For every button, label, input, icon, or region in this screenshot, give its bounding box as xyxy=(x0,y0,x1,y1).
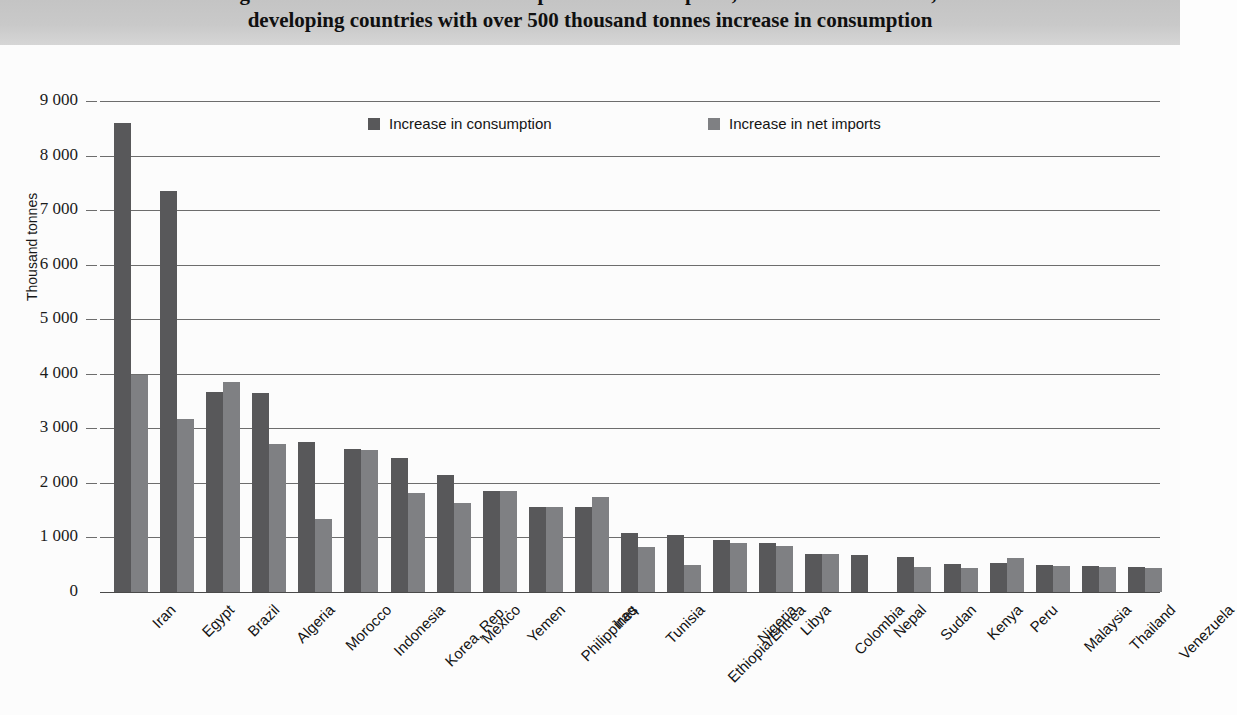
bar-consumption xyxy=(713,540,730,592)
bar-group xyxy=(897,101,931,592)
y-tick-label: 6 000 xyxy=(2,254,78,274)
y-axis-tick xyxy=(86,265,97,266)
bar-group xyxy=(713,101,747,592)
y-tick-label: 4 000 xyxy=(2,363,78,383)
x-axis-category-label: Kenya xyxy=(983,601,1025,643)
legend-label: Increase in net imports xyxy=(729,115,881,132)
x-axis-category-label: Indonesia xyxy=(390,601,448,659)
x-axis-category-label: Egypt xyxy=(198,601,237,640)
bar-net-imports xyxy=(684,565,701,592)
bar-net-imports xyxy=(1007,558,1024,592)
bar-consumption xyxy=(1036,565,1053,592)
bar-consumption xyxy=(206,392,223,592)
bar-net-imports xyxy=(361,450,378,592)
bar-group xyxy=(851,101,885,592)
bar-group xyxy=(1036,101,1070,592)
bar-group xyxy=(160,101,194,592)
bar-consumption xyxy=(851,555,868,592)
y-tick-label: 5 000 xyxy=(2,308,78,328)
bar-group xyxy=(805,101,839,592)
bar-group xyxy=(667,101,701,592)
y-axis-tick xyxy=(86,483,97,484)
bar-consumption xyxy=(575,507,592,592)
bar-consumption xyxy=(114,123,131,592)
y-axis-tick xyxy=(86,101,97,102)
chart-area: Thousand tonnes 9 0008 0007 0006 0005 00… xyxy=(0,45,1180,715)
bar-net-imports xyxy=(131,375,148,592)
bar-net-imports xyxy=(546,507,563,592)
bar-consumption xyxy=(529,507,546,592)
bar-group xyxy=(298,101,332,592)
bar-consumption xyxy=(621,533,638,592)
x-axis-category-label: Morocco xyxy=(342,601,395,654)
bar-consumption xyxy=(391,458,408,592)
y-tick-label: 2 000 xyxy=(2,472,78,492)
bar-net-imports xyxy=(592,497,609,592)
bar-net-imports xyxy=(914,567,931,592)
gridline xyxy=(100,592,1160,593)
bar-net-imports xyxy=(1053,566,1070,592)
bar-group xyxy=(990,101,1024,592)
y-tick-label: 9 000 xyxy=(2,90,78,110)
bar-group xyxy=(575,101,609,592)
bar-consumption xyxy=(437,475,454,592)
bar-group xyxy=(344,101,378,592)
bar-consumption xyxy=(1082,566,1099,592)
bar-group xyxy=(759,101,793,592)
bar-consumption xyxy=(344,449,361,592)
x-axis-category-label: Brazil xyxy=(244,601,283,640)
bar-consumption xyxy=(667,535,684,592)
y-tick-label: 0 xyxy=(2,581,78,601)
bar-consumption xyxy=(990,563,1007,592)
bar-group xyxy=(1128,101,1162,592)
title-line-2: developing countries with over 500 thous… xyxy=(0,6,1180,34)
bar-consumption xyxy=(483,491,500,592)
bar-group xyxy=(114,101,148,592)
x-axis-category-label: Peru xyxy=(1026,601,1060,635)
legend-swatch-icon xyxy=(368,118,380,130)
chart-legend: Increase in consumptionIncrease in net i… xyxy=(100,101,1160,131)
legend-item[interactable]: Increase in consumption xyxy=(368,115,552,132)
y-tick-label: 7 000 xyxy=(2,199,78,219)
x-axis-category-label: Yemen xyxy=(523,601,568,646)
x-axis-category-label: Algeria xyxy=(293,601,338,646)
bar-consumption xyxy=(944,564,961,592)
bar-net-imports xyxy=(1145,568,1162,592)
x-axis-category-label: Venezuela xyxy=(1175,601,1237,663)
title-band: Figure 2. Increase in wheat consumption … xyxy=(0,0,1180,45)
bar-consumption xyxy=(160,191,177,592)
bar-net-imports xyxy=(408,493,425,592)
bar-net-imports xyxy=(223,382,240,592)
y-axis-tick xyxy=(86,537,97,538)
x-axis-category-label: Thailand xyxy=(1126,601,1179,654)
y-axis-tick xyxy=(86,210,97,211)
bar-net-imports xyxy=(315,519,332,592)
bar-net-imports xyxy=(961,568,978,592)
y-axis-tick xyxy=(86,374,97,375)
legend-item[interactable]: Increase in net imports xyxy=(708,115,881,132)
bar-net-imports xyxy=(822,554,839,592)
bar-group xyxy=(391,101,425,592)
bar-group xyxy=(944,101,978,592)
y-tick-label: 3 000 xyxy=(2,417,78,437)
y-tick-label: 8 000 xyxy=(2,145,78,165)
legend-swatch-icon xyxy=(708,118,720,130)
x-axis-category-label: Iran xyxy=(149,601,179,631)
y-axis-tick xyxy=(86,319,97,320)
bar-group xyxy=(1082,101,1116,592)
bar-group xyxy=(483,101,517,592)
bar-net-imports xyxy=(500,491,517,592)
y-tick-label: 1 000 xyxy=(2,526,78,546)
bar-net-imports xyxy=(177,419,194,592)
x-axis-category-label: Tunisia xyxy=(662,601,708,647)
legend-label: Increase in consumption xyxy=(389,115,552,132)
bar-group xyxy=(529,101,563,592)
bar-consumption xyxy=(252,393,269,592)
bar-net-imports xyxy=(269,444,286,592)
bar-consumption xyxy=(897,557,914,592)
bar-group xyxy=(621,101,655,592)
y-axis-tick xyxy=(86,156,97,157)
x-axis-category-label: Sudan xyxy=(937,601,980,644)
bar-group xyxy=(206,101,240,592)
bar-net-imports xyxy=(454,503,471,592)
